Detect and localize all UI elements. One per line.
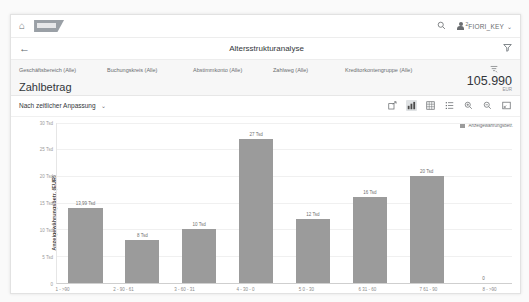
- x-tick-label: 5 0 - 30: [276, 287, 337, 294]
- bar-column[interactable]: 13,99 Tsd: [57, 123, 114, 283]
- search-icon[interactable]: [437, 21, 446, 32]
- list-icon[interactable]: [444, 100, 455, 111]
- y-tick-label: 25 Tsd: [40, 147, 53, 152]
- x-tick-label: 3 - 60 - 31: [154, 287, 215, 294]
- bar-series: 13,99 Tsd8 Tsd10 Tsd27 Tsd12 Tsd16 Tsd20…: [57, 123, 512, 283]
- plot-area: 13,99 Tsd8 Tsd10 Tsd27 Tsd12 Tsd16 Tsd20…: [56, 123, 512, 284]
- chevron-down-icon: ⌄: [507, 23, 512, 30]
- bar[interactable]: [68, 208, 102, 283]
- bar[interactable]: [182, 229, 216, 282]
- back-button[interactable]: ←: [19, 43, 30, 54]
- avatar-badge: 2: [465, 21, 468, 27]
- bar[interactable]: [353, 197, 387, 282]
- x-tick-label: 8 - >90: [459, 287, 520, 294]
- app-shell: ⌂ 2 FIORI_KEY ⌄ ← Altersstrukturanalyse: [10, 14, 521, 294]
- user-menu[interactable]: 2 FIORI_KEY ⌄: [457, 22, 512, 31]
- bar-value-label: 27 Tsd: [249, 132, 262, 137]
- x-tick-label: 6 31 - 60: [337, 287, 398, 294]
- kpi-value-group: 105.990 EUR: [467, 75, 512, 93]
- bar-value-label: 0: [482, 276, 485, 281]
- bar-value-label: 20 Tsd: [420, 169, 433, 174]
- filter-geschaeftsbereich[interactable]: Geschäftsbereich (Alle): [19, 67, 107, 73]
- table-grid-icon[interactable]: [425, 100, 436, 111]
- filter-abstimmkonto[interactable]: Abstimmkonto (Alle): [193, 67, 273, 73]
- chart-canvas[interactable]: Anzeigewährungsbetr. Anzeigewährungsbetr…: [11, 117, 520, 294]
- x-axis-labels: 1 - >902 - 90 - 613 - 60 - 314 - 30 - 05…: [32, 287, 520, 294]
- bar-column[interactable]: 27 Tsd: [228, 123, 285, 283]
- y-tick-label: 0: [50, 281, 53, 286]
- kpi-row: Zahlbetrag 105.990 EUR: [19, 74, 512, 93]
- bar-value-label: 12 Tsd: [306, 212, 319, 217]
- y-tick-label: 15 Tsd: [40, 201, 53, 206]
- kpi-label: Zahlbetrag: [19, 81, 72, 93]
- y-tick-label: 30 Tsd: [40, 120, 53, 125]
- y-tick-label: 20 Tsd: [40, 174, 53, 179]
- bar[interactable]: [125, 240, 159, 283]
- zoom-in-icon[interactable]: [463, 100, 474, 111]
- shellbar-actions: 2 FIORI_KEY ⌄: [437, 21, 512, 32]
- avatar-icon: 2: [457, 22, 465, 31]
- bar[interactable]: [296, 219, 330, 283]
- bar[interactable]: [239, 139, 273, 283]
- y-axis-ticks: 05 Tsd10 Tsd15 Tsd20 Tsd25 Tsd30 Tsd: [35, 123, 55, 284]
- x-tick-label: 2 - 90 - 61: [93, 287, 154, 294]
- bar-value-label: 8 Tsd: [137, 233, 148, 238]
- sap-logo[interactable]: [34, 20, 64, 32]
- fullscreen-icon[interactable]: [501, 100, 512, 111]
- shellbar: ⌂ 2 FIORI_KEY ⌄: [11, 15, 520, 38]
- bar-value-label: 13,99 Tsd: [76, 201, 95, 206]
- y-tick-label: 5 Tsd: [42, 254, 53, 259]
- plot-wrapper: 05 Tsd10 Tsd15 Tsd20 Tsd25 Tsd30 Tsd 13,…: [35, 123, 512, 284]
- bar-value-label: 10 Tsd: [193, 222, 206, 227]
- bar-column[interactable]: 20 Tsd: [398, 123, 455, 283]
- filter-buchungskreis[interactable]: Buchungskreis (Alle): [107, 67, 193, 73]
- filter-zahlweg[interactable]: Zahlweg (Alle): [273, 67, 345, 73]
- y-tick-label: 10 Tsd: [40, 227, 53, 232]
- filter-settings-icon[interactable]: [490, 65, 498, 74]
- x-tick-label: 4 - 30 - 0: [215, 287, 276, 294]
- app-page: ⌂ 2 FIORI_KEY ⌄ ← Altersstrukturanalyse: [0, 0, 529, 302]
- dimension-selector[interactable]: Nach zeitlicher Anpassung ⌄: [19, 102, 106, 109]
- bar-column[interactable]: 10 Tsd: [171, 123, 228, 283]
- bar[interactable]: [410, 176, 444, 283]
- filter-bar: Geschäftsbereich (Alle) Buchungskreis (A…: [11, 60, 520, 96]
- bar-value-label: 16 Tsd: [363, 190, 376, 195]
- chart-toolbar: Nach zeitlicher Anpassung ⌄: [11, 96, 520, 117]
- filter-chip-row: Geschäftsbereich (Alle) Buchungskreis (A…: [19, 65, 512, 74]
- bar-column[interactable]: 12 Tsd: [285, 123, 342, 283]
- dimension-label: Nach zeitlicher Anpassung: [19, 102, 96, 109]
- x-tick-label: 7 61 - 90: [398, 287, 459, 294]
- bar-column[interactable]: 16 Tsd: [341, 123, 398, 283]
- chevron-down-icon: ⌄: [101, 102, 106, 109]
- user-name: FIORI_KEY: [468, 23, 504, 30]
- bar-column[interactable]: 8 Tsd: [114, 123, 171, 283]
- filter-kreditorkontengruppe[interactable]: Kreditorkontengruppe (Alle): [345, 67, 412, 73]
- share-icon[interactable]: [387, 100, 398, 111]
- x-tick-label: 1 - >90: [32, 287, 93, 294]
- bar-column[interactable]: 0: [455, 123, 512, 283]
- home-icon[interactable]: ⌂: [19, 21, 25, 31]
- page-header: ← Altersstrukturanalyse: [11, 38, 520, 60]
- zoom-out-icon[interactable]: [482, 100, 493, 111]
- kpi-currency: EUR: [467, 88, 512, 93]
- page-title: Altersstrukturanalyse: [30, 44, 503, 53]
- chart-view-actions: [387, 100, 512, 111]
- bar-chart-icon[interactable]: [406, 100, 417, 111]
- filter-funnel-icon[interactable]: [503, 43, 512, 54]
